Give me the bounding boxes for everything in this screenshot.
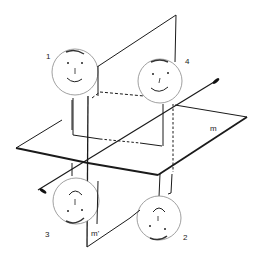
label-face-2: 2 bbox=[183, 233, 188, 242]
label-plane-m-prime: m' bbox=[91, 229, 100, 238]
face-2 bbox=[137, 196, 181, 240]
rotation-axis bbox=[38, 77, 220, 194]
symmetry-diagram: 1 4 3 2 m m' bbox=[0, 0, 262, 264]
face-4 bbox=[138, 59, 182, 103]
face-3 bbox=[53, 178, 99, 224]
label-plane-m: m bbox=[210, 124, 217, 133]
label-face-3: 3 bbox=[45, 230, 50, 239]
face-1 bbox=[52, 49, 98, 95]
label-face-1: 1 bbox=[46, 52, 51, 61]
axis-tip-top bbox=[212, 77, 220, 85]
label-face-4: 4 bbox=[185, 57, 190, 66]
horizontal-plane-m bbox=[16, 105, 247, 175]
axis-tip-bottom bbox=[39, 187, 47, 194]
